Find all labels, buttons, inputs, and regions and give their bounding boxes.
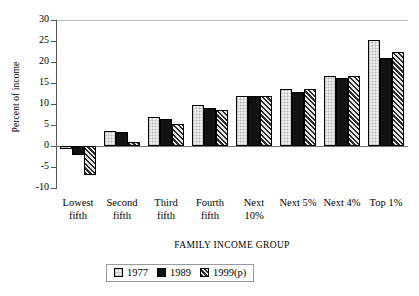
x-axis-tick-label: Next 5% <box>276 196 320 209</box>
y-axis-tick-label: 5 <box>23 118 49 129</box>
x-axis-tick-label: Top 1% <box>364 196 408 209</box>
legend-label: 1999(p) <box>213 267 246 278</box>
bar <box>160 119 172 146</box>
bar <box>236 96 248 146</box>
bar <box>148 117 160 146</box>
x-axis-tick-label: Second fifth <box>100 196 144 222</box>
bar <box>324 76 336 146</box>
plot-area: 302520151050-5-10 Lowest fifthSecond fif… <box>56 20 408 188</box>
y-axis-tick-mark <box>51 125 56 126</box>
y-axis-tick-mark <box>51 20 56 21</box>
x-axis-tick-label: Third fifth <box>144 196 188 222</box>
bar <box>304 89 316 146</box>
legend-item: 1999(p) <box>200 267 246 278</box>
y-axis-tick-label: 25 <box>23 34 49 45</box>
x-axis-tick-label: Fourth fifth <box>188 196 232 222</box>
bar <box>248 96 260 146</box>
bar <box>204 108 216 146</box>
bar <box>104 131 116 146</box>
y-axis-tick-label: 15 <box>23 76 49 87</box>
bar <box>216 110 228 146</box>
legend-swatch-icon <box>200 268 209 277</box>
y-axis-title: Percent of income <box>11 42 21 152</box>
bar <box>84 146 96 175</box>
y-axis-tick-mark <box>51 41 56 42</box>
legend-swatch-icon <box>157 268 166 277</box>
bar <box>192 105 204 146</box>
y-axis-tick-label: 10 <box>23 97 49 108</box>
bar <box>392 52 404 146</box>
y-axis-tick-label: 30 <box>23 13 49 24</box>
legend-label: 1989 <box>170 267 191 278</box>
y-axis-tick-label: 0 <box>23 139 49 150</box>
bar <box>380 58 392 146</box>
legend-swatch-icon <box>114 268 123 277</box>
x-axis-zero-line <box>56 146 408 147</box>
chart-legend: 197719891999(p) <box>106 264 254 282</box>
bar <box>368 40 380 146</box>
y-axis-tick-label: -5 <box>23 160 49 171</box>
y-axis-tick-mark <box>51 167 56 168</box>
y-axis-tick-mark <box>51 62 56 63</box>
x-axis-tick-label: Next 10% <box>232 196 276 222</box>
y-axis-tick-label: -10 <box>23 181 49 192</box>
bar <box>72 146 84 155</box>
x-axis-tick-label: Lowest fifth <box>56 196 100 222</box>
y-axis-tick-mark <box>51 146 56 147</box>
bar <box>336 78 348 146</box>
legend-item: 1977 <box>114 267 148 278</box>
bar-chart-figure: Percent of income 302520151050-5-10 Lowe… <box>0 0 419 296</box>
bar <box>116 132 128 146</box>
bar <box>292 92 304 146</box>
y-axis-line <box>56 20 57 189</box>
x-axis-tick-label: Next 4% <box>320 196 364 209</box>
y-axis-tick-mark <box>51 188 56 189</box>
bar <box>172 124 184 146</box>
bar <box>128 142 140 146</box>
legend-item: 1989 <box>157 267 191 278</box>
y-axis-tick-mark <box>51 83 56 84</box>
bar <box>260 96 272 146</box>
x-axis-title: FAMILY INCOME GROUP <box>56 240 408 250</box>
bar <box>280 89 292 146</box>
bar <box>348 76 360 146</box>
bar <box>60 146 72 149</box>
y-axis-tick-label: 20 <box>23 55 49 66</box>
y-axis-tick-mark <box>51 104 56 105</box>
legend-label: 1977 <box>127 267 148 278</box>
plot-top-border <box>56 20 408 21</box>
